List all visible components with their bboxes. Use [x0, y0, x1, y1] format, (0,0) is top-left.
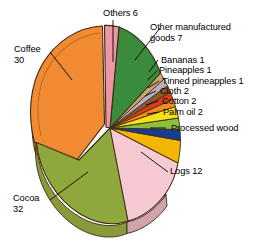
label-pineapples-text: Pineapples 1 — [159, 65, 212, 75]
label-palm-oil: Palm oil 2 — [163, 107, 203, 118]
label-cocoa: Cocoa 32 — [13, 193, 39, 214]
label-other-manufactured-goods-line2: goods 7 — [150, 33, 182, 43]
label-others: Others 6 — [103, 8, 138, 19]
label-coffee-line1: Coffee — [14, 44, 41, 54]
label-logs: Logs 12 — [170, 166, 202, 177]
label-processed-wood-text: Processed wood — [171, 123, 238, 133]
label-other-manufactured-goods-line1: Other manufactured — [150, 22, 231, 32]
label-other-manufactured-goods: Other manufactured goods 7 — [150, 22, 255, 43]
label-cotton-text: Cotton 2 — [162, 96, 196, 106]
label-palm-oil-text: Palm oil 2 — [163, 107, 203, 117]
label-bananas: Bananas 1 — [161, 55, 205, 66]
pie-chart: Others 6 Other manufactured goods 7 Bana… — [0, 0, 264, 246]
label-tinned-pineapples-text: Tinned pineapples 1 — [162, 76, 244, 86]
slice-group-coffee[interactable] — [31, 26, 105, 161]
label-tinned-pineapples: Tinned pineapples 1 — [162, 76, 244, 87]
label-cocoa-line2: 32 — [13, 204, 23, 214]
label-processed-wood: Processed wood — [171, 123, 238, 134]
label-coffee: Coffee 30 — [14, 44, 41, 65]
label-cloth: Cloth 2 — [160, 86, 189, 97]
label-cloth-text: Cloth 2 — [160, 86, 189, 96]
label-cotton: Cotton 2 — [162, 96, 196, 107]
label-others-text: Others 6 — [103, 8, 138, 18]
label-logs-text: Logs 12 — [170, 166, 202, 176]
label-bananas-text: Bananas 1 — [161, 55, 205, 65]
label-coffee-line2: 30 — [14, 55, 24, 65]
label-pineapples: Pineapples 1 — [159, 65, 212, 76]
label-cocoa-line1: Cocoa — [13, 193, 39, 203]
